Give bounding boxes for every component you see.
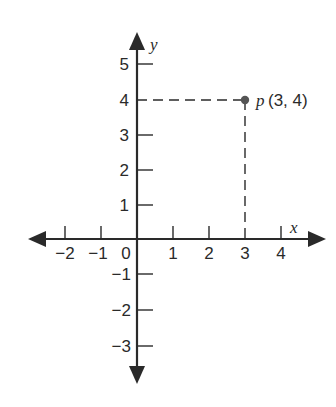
point-name-label: p <box>255 91 265 110</box>
x-axis-left-arrow-icon <box>28 231 46 247</box>
x-tick-label: −2 <box>55 244 74 263</box>
y-axis-label: y <box>148 35 158 54</box>
coordinate-plane: y x −2 −1 0 1 2 3 4 5 4 3 2 1 −1 −2 −3 p… <box>0 0 336 407</box>
y-tick-label: 1 <box>120 196 129 215</box>
x-tick-label: 4 <box>276 244 285 263</box>
origin-label: 0 <box>121 244 130 263</box>
y-tick-label: −2 <box>112 301 131 320</box>
x-tick-label: −1 <box>88 244 107 263</box>
x-ticks <box>65 226 281 239</box>
y-ticks <box>137 64 153 346</box>
y-axis-up-arrow-icon <box>129 32 145 50</box>
x-tick-label: 2 <box>204 244 213 263</box>
y-tick-label: 3 <box>120 126 129 145</box>
y-axis-down-arrow-icon <box>129 366 145 384</box>
point-coords-label: (3, 4) <box>268 91 308 110</box>
point-p <box>241 96 249 104</box>
x-axis-label: x <box>289 218 298 237</box>
x-tick-label: 1 <box>168 244 177 263</box>
x-axis-right-arrow-icon <box>308 231 326 247</box>
y-tick-label: −3 <box>112 337 131 356</box>
y-tick-label: −1 <box>112 265 131 284</box>
x-tick-label: 3 <box>240 244 249 263</box>
y-tick-label: 5 <box>120 55 129 74</box>
y-tick-label: 4 <box>120 91 129 110</box>
y-tick-label: 2 <box>120 161 129 180</box>
